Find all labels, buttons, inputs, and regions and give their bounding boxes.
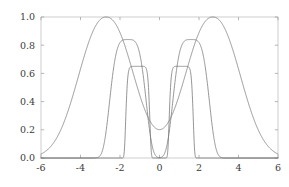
x-tick-label: 0 — [156, 162, 162, 173]
y-tick-label: 1.0 — [20, 11, 35, 22]
curve-line — [41, 17, 278, 154]
x-tick-label: -2 — [115, 162, 124, 173]
plot-figure: -6-4-20246 0.00.20.40.60.81.0 — [0, 0, 289, 187]
y-tick-label: 0.4 — [20, 96, 35, 107]
x-tick-label: -4 — [76, 162, 85, 173]
x-tick-label: 6 — [275, 162, 281, 173]
curve-line — [41, 40, 278, 158]
plot-frame — [41, 17, 278, 158]
curve-line — [41, 66, 278, 158]
x-tick-label: 2 — [196, 162, 202, 173]
x-tick-labels: -6-4-20246 — [36, 162, 281, 173]
data-curves — [41, 17, 278, 158]
frame-border — [41, 17, 278, 158]
y-tick-labels: 0.00.20.40.60.81.0 — [20, 11, 35, 163]
y-tick-label: 0.6 — [20, 68, 35, 79]
y-tick-label: 0.8 — [20, 40, 35, 51]
x-tick-label: -6 — [36, 162, 45, 173]
x-tick-label: 4 — [235, 162, 241, 173]
x-tick-marks — [41, 17, 278, 158]
plot-canvas: -6-4-20246 0.00.20.40.60.81.0 — [0, 0, 289, 187]
y-tick-marks — [41, 17, 278, 158]
y-tick-label: 0.0 — [20, 152, 35, 163]
y-tick-label: 0.2 — [20, 124, 35, 135]
